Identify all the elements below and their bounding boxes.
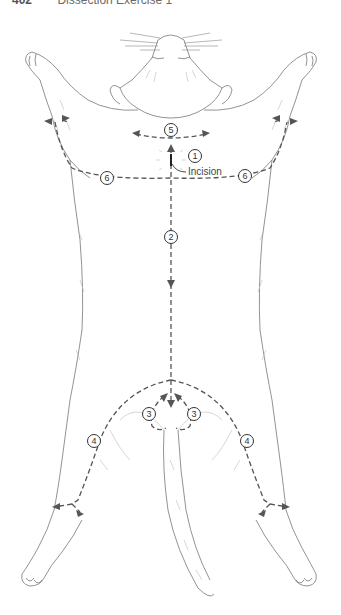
marker-5: 5 bbox=[165, 124, 178, 137]
whiskers bbox=[120, 33, 222, 50]
marker-6-left: 6 bbox=[101, 172, 114, 185]
svg-text:4: 4 bbox=[244, 436, 249, 446]
svg-text:1: 1 bbox=[192, 151, 197, 161]
groin-outline bbox=[120, 412, 222, 430]
svg-text:3: 3 bbox=[146, 409, 151, 419]
svg-text:6: 6 bbox=[242, 171, 247, 181]
svg-text:5: 5 bbox=[168, 125, 173, 135]
cat-tail bbox=[164, 430, 215, 596]
hindlimb-left bbox=[22, 430, 130, 586]
cat-torso bbox=[54, 160, 286, 510]
svg-text:6: 6 bbox=[104, 173, 109, 183]
svg-text:2: 2 bbox=[168, 232, 173, 242]
marker-3-right: 3 bbox=[188, 408, 201, 421]
hindlimb-right bbox=[212, 430, 316, 586]
forelimb-left bbox=[26, 52, 138, 178]
marker-4-right: 4 bbox=[241, 435, 254, 448]
cat-head bbox=[110, 35, 232, 118]
marker-2: 2 bbox=[165, 231, 178, 244]
marker-3-left: 3 bbox=[143, 408, 156, 421]
marker-1: 1 bbox=[189, 150, 202, 163]
svg-text:4: 4 bbox=[91, 436, 96, 446]
cut-line-2-midline bbox=[167, 144, 175, 408]
marker-6-right: 6 bbox=[239, 170, 252, 183]
svg-text:3: 3 bbox=[191, 409, 196, 419]
incision-label: Incision bbox=[188, 166, 222, 177]
cat-dissection-diagram: 1 Incision 2 3 3 4 4 5 6 6 bbox=[0, 0, 341, 615]
marker-4-left: 4 bbox=[88, 435, 101, 448]
forelimb-right bbox=[204, 52, 316, 178]
